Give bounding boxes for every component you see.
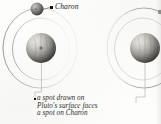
charon-body-right [158,10,161,14]
charon-label: Charon [55,2,79,11]
diagram-panel-right: r a [96,0,161,124]
caption-bullet-left [34,98,37,101]
pluto-charon-figure: Charon a spot drawn on Pluto's surface f… [0,0,161,124]
diagram-panel-left: Charon a spot drawn on Pluto's surface f… [0,0,100,124]
caption-left-line-3: a spot on Charon [37,110,97,118]
pluto-spot-marker [39,46,42,49]
charon-spot-marker [35,7,37,10]
panel-right-graphics [96,0,161,124]
caption-left: a spot drawn on Pluto's surface faces a … [37,95,97,118]
charon-label-bullet [50,6,53,9]
